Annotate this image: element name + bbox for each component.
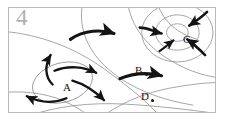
vortex-c-arrow-top-right xyxy=(189,12,207,26)
streamline-group xyxy=(9,8,215,112)
point-b-marker xyxy=(145,73,148,76)
vortex-c-arrows xyxy=(140,12,207,55)
point-d-label: D xyxy=(141,91,149,102)
point-b-label: B xyxy=(135,65,142,76)
point-d-marker xyxy=(151,99,154,102)
panel-number: 4 xyxy=(16,7,28,29)
vortex-a-arrow-right xyxy=(55,67,97,73)
vortex-c-arrow-left xyxy=(140,28,162,34)
vortex-a-arrow-up xyxy=(46,55,52,84)
vortex-a-label: A xyxy=(63,82,71,93)
vortex-a-arrow-down-right xyxy=(72,81,104,101)
figure-panel: 4 A C B D xyxy=(0,0,225,121)
flow-arrow-upper-jet xyxy=(70,31,114,39)
flow-field-diagram xyxy=(9,8,215,112)
panel-frame: 4 A C B D xyxy=(8,7,216,113)
vortex-a-arrow-left xyxy=(27,96,67,102)
streamline-2 xyxy=(81,8,193,105)
vortex-c-label: C xyxy=(183,34,190,45)
streamline-5 xyxy=(29,104,215,112)
flow-arrow-group xyxy=(70,31,161,79)
